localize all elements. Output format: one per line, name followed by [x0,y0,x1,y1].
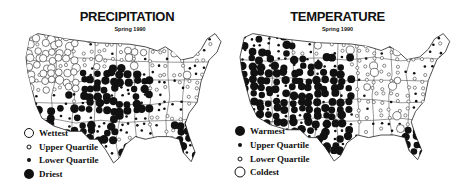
legend-item-driest: Driest [22,168,63,180]
legend-item-lower-quartile: Lower Quartile [22,154,99,166]
legend-item-warmest: Warmest [233,125,285,137]
legend-item-upper-quartile: Upper Quartile [22,141,98,153]
large-filled-circle-icon [22,168,36,180]
legend-item-wettest: Wettest [22,127,68,139]
temperature-panel: TEMPERATURE Spring 1990 Warmest Upper Qu… [230,0,461,196]
small-filled-circle-icon [22,154,36,166]
small-filled-circle-icon [233,139,247,151]
legend-item-lower-quartile: Lower Quartile [233,153,310,165]
precipitation-panel: PRECIPITATION Spring 1990 Wettest Upper … [0,0,230,196]
legend-item-upper-quartile: Upper Quartile [233,139,309,151]
large-filled-circle-icon [233,125,247,137]
large-open-circle-icon [22,127,36,139]
small-open-circle-icon [22,141,36,153]
small-open-circle-icon [233,153,247,165]
legend-item-coldest: Coldest [233,166,279,178]
large-open-circle-icon [233,166,247,178]
precipitation-us-map [0,0,230,196]
